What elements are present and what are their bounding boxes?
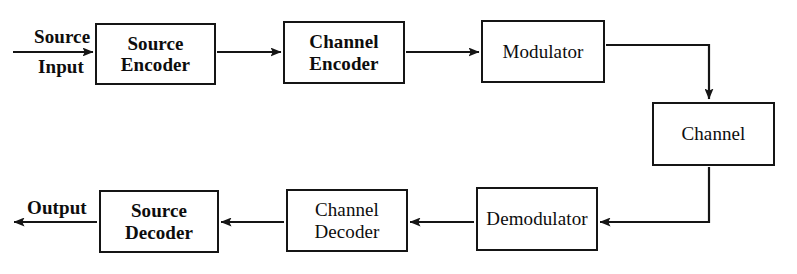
block-channel-encoder-label: Channel Encoder [309,31,378,74]
block-diagram-figure: Source Encoder Channel Encoder Modulator… [0,0,797,274]
block-channel-encoder[interactable]: Channel Encoder [283,21,405,84]
block-modulator-label: Modulator [502,41,583,62]
connector-channel-to-demodulator [600,167,709,222]
block-source-encoder[interactable]: Source Encoder [95,23,216,85]
block-channel-decoder[interactable]: Channel Decoder [286,189,408,252]
label-source-input-line1: Source [34,26,90,47]
block-source-encoder-label: Source Encoder [121,33,190,76]
block-channel-decoder-label: Channel Decoder [314,199,379,242]
block-source-decoder[interactable]: Source Decoder [99,190,219,253]
block-channel-label: Channel [681,123,745,144]
label-output: Output [27,197,87,218]
block-demodulator-label: Demodulator [486,208,587,229]
label-source-input-line2: Input [38,56,84,77]
block-channel[interactable]: Channel [652,102,775,166]
block-modulator[interactable]: Modulator [481,20,605,83]
block-demodulator[interactable]: Demodulator [476,187,598,251]
block-source-decoder-label: Source Decoder [125,200,193,243]
connector-modulator-to-channel [606,45,709,99]
